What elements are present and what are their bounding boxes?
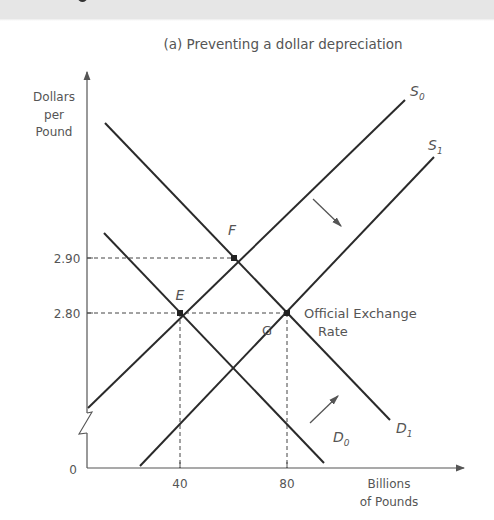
point-e-marker bbox=[177, 310, 183, 316]
x-axis-label: Billions of Pounds bbox=[360, 477, 419, 509]
reference-lines bbox=[87, 258, 287, 468]
y-axis-label: Dollars per Pound bbox=[33, 90, 75, 139]
official-rate-marker bbox=[284, 310, 290, 316]
curve-label-d1: D1 bbox=[396, 420, 413, 439]
origin-label: 0 bbox=[69, 463, 77, 477]
x-tick-label-80: 80 bbox=[279, 477, 294, 491]
x-tick-label-40: 40 bbox=[172, 477, 187, 491]
demand-curve-d0 bbox=[104, 233, 324, 463]
curve-label-s0: S0 bbox=[410, 83, 425, 102]
demand-curve-d1 bbox=[105, 123, 390, 420]
axis-break-icon bbox=[79, 412, 92, 434]
y-axis bbox=[79, 72, 92, 468]
point-label-f: F bbox=[228, 222, 237, 238]
chart-title: (a) Preventing a dollar depreciation bbox=[163, 36, 402, 52]
y-tick-label-2-80: 2.80 bbox=[54, 307, 81, 321]
point-f-marker bbox=[231, 255, 237, 261]
x-axis-label-line-1: Billions bbox=[368, 477, 411, 491]
supply-shift-arrow-icon bbox=[313, 199, 341, 226]
demand-shift-arrow-icon bbox=[310, 396, 338, 423]
y-axis-label-line-1: Dollars bbox=[33, 90, 75, 104]
x-axis-label-line-2: of Pounds bbox=[360, 495, 419, 509]
point-label-e: E bbox=[176, 287, 185, 303]
official-rate-label-line-1: Official Exchange bbox=[304, 306, 417, 321]
supply-curve-s0 bbox=[88, 100, 405, 408]
exchange-rate-diagram: (a) Preventing a dollar depreciation Dol… bbox=[0, 0, 494, 520]
y-axis-label-line-2: per bbox=[44, 108, 64, 122]
y-axis-label-line-3: Pound bbox=[36, 125, 73, 139]
point-label-g: G bbox=[262, 323, 272, 338]
curve-label-s1: S1 bbox=[428, 137, 443, 156]
official-rate-label-line-2: Rate bbox=[318, 324, 348, 339]
curve-label-d0: D0 bbox=[333, 429, 350, 448]
y-tick-label-2-90: 2.90 bbox=[54, 252, 81, 266]
